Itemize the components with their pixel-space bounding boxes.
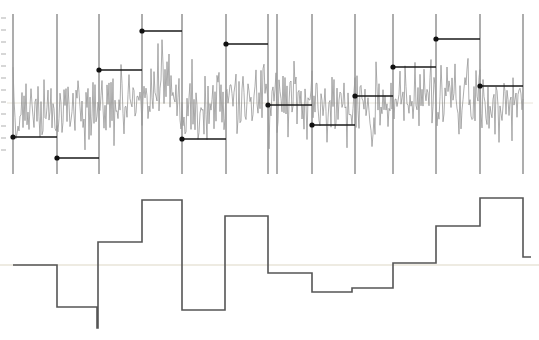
figure-root [0,0,539,340]
segment-start-marker [179,136,184,141]
signal-plot-svg [0,0,539,182]
segment-start-marker [309,122,314,127]
axis-tick-group [1,18,6,150]
segment-start-marker [352,93,357,98]
signal-panel [0,0,539,182]
segment-start-marker [96,67,101,72]
segment-start-marker [477,83,482,88]
segment-start-marker [265,102,270,107]
step-curve-group [13,198,531,328]
changepoint-boundary-group [13,14,523,174]
step-function-panel [0,182,539,340]
segment-marker-group [10,28,482,160]
segment-start-marker [139,28,144,33]
step-plot-svg [0,182,539,340]
step-function-path [13,198,531,328]
segment-start-marker [223,41,228,46]
segment-start-marker [390,64,395,69]
segment-start-marker [54,155,59,160]
segment-start-marker [10,134,15,139]
segment-start-marker [433,36,438,41]
